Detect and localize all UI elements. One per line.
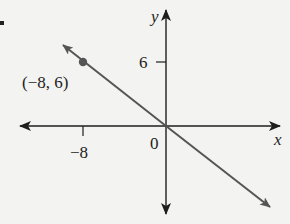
y-axis-label: y bbox=[149, 7, 159, 26]
x-tick-label-neg8: −8 bbox=[70, 143, 88, 162]
margin-bullet bbox=[0, 21, 4, 25]
y-tick-label-6: 6 bbox=[139, 53, 148, 72]
x-axis-label: x bbox=[273, 130, 282, 149]
origin-label: 0 bbox=[150, 134, 159, 153]
page-background: y x 0 −8 6 (−8, 6) bbox=[0, 0, 290, 224]
coordinate-plane: y x 0 −8 6 (−8, 6) bbox=[0, 0, 290, 224]
point-label: (−8, 6) bbox=[22, 73, 68, 92]
point-neg8-6 bbox=[79, 58, 87, 66]
